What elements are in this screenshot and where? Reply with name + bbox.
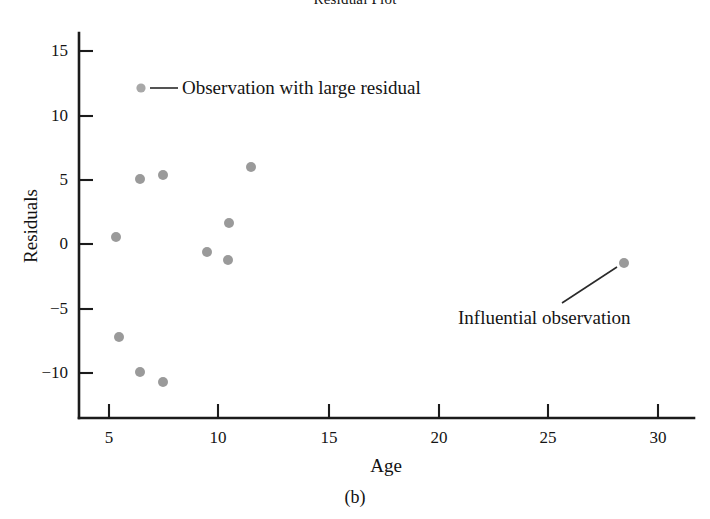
data-point-large-residual: [136, 83, 145, 92]
y-tick-label-neg5: −5: [22, 299, 68, 319]
x-axis-title: Age: [370, 455, 402, 477]
x-tick-label-15: 15: [321, 428, 338, 448]
data-point: [158, 170, 168, 180]
y-tick-marks: [79, 51, 93, 373]
x-tick-label-20: 20: [431, 428, 448, 448]
data-point: [114, 332, 124, 342]
x-tick-label-25: 25: [540, 428, 557, 448]
data-point: [224, 218, 234, 228]
y-axis-title: Residuals: [20, 166, 42, 286]
annotation-influential-observation: Influential observation: [458, 307, 631, 329]
data-point-influential: [619, 258, 629, 268]
y-tick-label-15: 15: [28, 41, 68, 61]
data-point: [135, 367, 145, 377]
x-tick-label-5: 5: [105, 428, 114, 448]
leader-line-influential: [562, 267, 617, 303]
y-tick-label-10: 10: [28, 106, 68, 126]
annotation-large-residual: Observation with large residual: [182, 77, 421, 99]
x-tick-label-30: 30: [650, 428, 667, 448]
data-point: [111, 232, 121, 242]
scatter-points: [111, 83, 629, 387]
data-point: [246, 162, 256, 172]
y-tick-label-neg10: −10: [16, 363, 68, 383]
data-point: [135, 174, 145, 184]
x-tick-label-10: 10: [210, 428, 227, 448]
data-point: [202, 247, 212, 257]
x-tick-marks: [109, 404, 658, 418]
data-point: [223, 255, 233, 265]
figure-sub-caption: (b): [0, 487, 710, 508]
data-point: [158, 377, 168, 387]
residual-plot-figure: Residual Plot: [0, 0, 710, 519]
